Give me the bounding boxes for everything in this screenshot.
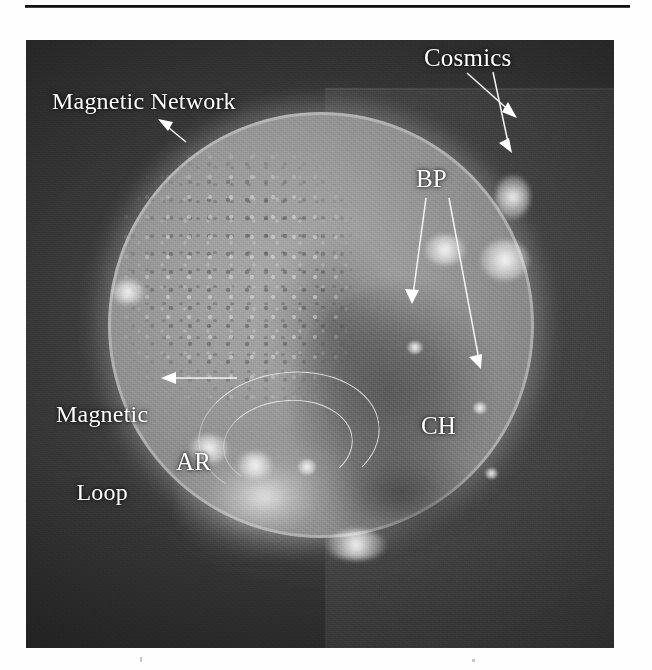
solar-euv-figure: Cosmics Magnetic Network BP Magnetic Loo… bbox=[26, 40, 614, 648]
label-ar: AR bbox=[176, 448, 211, 475]
page-speck-2 bbox=[472, 659, 475, 662]
page-speck-1 bbox=[140, 657, 142, 662]
horizontal-rule bbox=[25, 5, 630, 8]
label-magnetic-loop-line2: Loop bbox=[56, 480, 148, 506]
label-ch: CH bbox=[421, 412, 456, 439]
label-bp: BP bbox=[416, 165, 447, 192]
label-magnetic-network: Magnetic Network bbox=[52, 89, 236, 115]
label-magnetic-loop-line1: Magnetic bbox=[56, 402, 148, 428]
label-magnetic-loop: Magnetic Loop bbox=[56, 350, 148, 557]
label-cosmics: Cosmics bbox=[424, 44, 512, 71]
page-canvas: Cosmics Magnetic Network BP Magnetic Loo… bbox=[0, 0, 652, 670]
